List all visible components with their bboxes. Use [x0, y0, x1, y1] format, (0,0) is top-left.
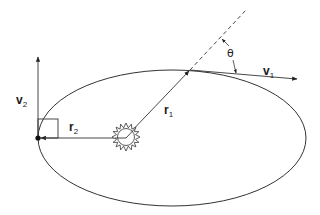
orbit-diagram: v1 v2 r1 r2 θ: [0, 0, 320, 215]
theta-label: θ: [227, 47, 234, 60]
sun-icon: [112, 123, 140, 151]
r2-label: r2: [69, 120, 79, 136]
planet-dot: [35, 135, 40, 140]
v1-label: v1: [263, 64, 275, 80]
v2-label: v2: [16, 93, 28, 109]
v1-arrow: [190, 70, 297, 79]
r1-extension-dashed-line: [190, 10, 246, 70]
r1-label: r1: [164, 103, 174, 119]
right-angle-marker: [38, 119, 58, 138]
